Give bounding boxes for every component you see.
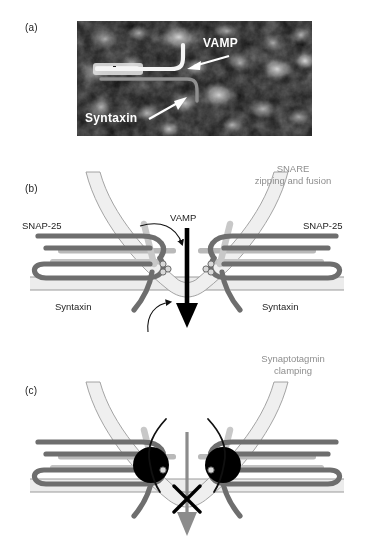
panel-c: (c) xyxy=(0,340,374,540)
syntaxin-pointer-b xyxy=(148,302,170,332)
panel-b-caption-line1: SNARE xyxy=(228,163,358,175)
panel-c-caption-line1: Synaptotagmin xyxy=(228,353,358,365)
figure-root: (a) xyxy=(0,0,374,540)
panel-c-caption: Synaptotagmin clamping xyxy=(228,353,358,377)
snare-complex-left-b xyxy=(34,224,176,310)
panel-b-caption: SNARE zipping and fusion xyxy=(228,163,358,187)
snare-complex-left-c xyxy=(34,419,176,516)
panel-c-caption-line2: clamping xyxy=(228,365,358,377)
snap25-label-right: SNAP-25 xyxy=(303,220,343,231)
em-vamp-label: VAMP xyxy=(203,36,238,50)
panel-b: (b) xyxy=(0,160,374,340)
snap25-label-left: SNAP-25 xyxy=(22,220,62,231)
electron-micrograph-image: VAMP Syntaxin xyxy=(77,21,312,136)
snare-complex-right-c xyxy=(198,419,340,516)
panel-b-caption-line2: zipping and fusion xyxy=(228,175,358,187)
vamp-label-b: VAMP xyxy=(170,212,196,223)
syntaxin-label-left-b: Syntaxin xyxy=(55,301,91,312)
syntaxin-label-right-b: Syntaxin xyxy=(262,301,298,312)
em-syntaxin-label: Syntaxin xyxy=(85,111,137,125)
panel-a-label: (a) xyxy=(25,22,38,33)
snare-complex-right-b xyxy=(198,224,340,310)
panel-a: (a) xyxy=(0,0,374,155)
panel-b-schematic xyxy=(0,160,374,340)
